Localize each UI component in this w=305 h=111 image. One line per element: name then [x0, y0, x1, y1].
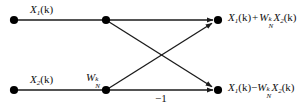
output-bottom-term2-arg: (k)	[282, 81, 295, 93]
input-bottom-arg: (k)	[40, 73, 53, 85]
cross-down-branch	[106, 20, 212, 87]
output-top-operator: +	[251, 11, 259, 23]
mid-top-node	[102, 16, 110, 24]
output-top-node	[214, 16, 222, 24]
twiddle-sub: N	[95, 83, 100, 90]
output-bottom-term1-arg: (k)	[238, 81, 251, 93]
output-top-label: X1(k)+WkNX2(k)	[228, 12, 297, 25]
mid-bottom-node	[102, 86, 110, 94]
output-bottom-node	[214, 86, 222, 94]
twiddle-factor: WkN	[86, 72, 100, 83]
input-top-arg: (k)	[40, 3, 53, 15]
input-bottom-base: X	[30, 73, 37, 85]
input-top-node	[10, 16, 18, 24]
output-bottom-term1-base: X	[228, 81, 235, 93]
cross-up-branch	[106, 23, 212, 90]
output-top-term1-arg: (k)	[238, 11, 251, 23]
input-top-base: X	[30, 3, 37, 15]
minus-one-label: −1	[155, 93, 167, 104]
butterfly-diagram: X1(k) X2(k) WkN −1 X1(k)+WkNX2(k) X1(k)−…	[0, 0, 305, 111]
output-top-term1-base: X	[228, 11, 235, 23]
output-bottom-twiddle-sub: N	[266, 93, 271, 100]
twiddle-base: W	[86, 71, 95, 83]
twiddle-factor-label: WkN	[86, 72, 100, 83]
output-bottom-twiddle: WkN	[257, 82, 271, 93]
output-bottom-label: X1(k)−WkNX2(k)	[228, 82, 295, 95]
input-bottom-label: X2(k)	[30, 74, 53, 87]
output-top-twiddle: WkN	[259, 12, 273, 23]
output-top-term2-arg: (k)	[284, 11, 297, 23]
output-top-twiddle-sub: N	[268, 23, 273, 30]
input-bottom-node	[10, 86, 18, 94]
input-top-label: X1(k)	[30, 4, 53, 17]
